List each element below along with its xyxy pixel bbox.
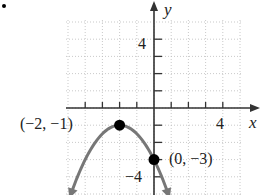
y-axis-label: y	[162, 0, 172, 19]
x-axis-label: x	[248, 113, 257, 132]
plotted-point	[149, 154, 160, 165]
axes	[66, 1, 260, 195]
y-tick-label-neg4: −4	[125, 168, 142, 185]
parabola-graph: y x 4 4 −4 (−2, −1) (0, −3)	[0, 0, 270, 195]
intercept-label: (0, −3)	[169, 150, 213, 168]
vertex-label: (−2, −1)	[20, 115, 73, 133]
y-tick-label-4: 4	[138, 35, 146, 52]
x-tick-label-4: 4	[216, 115, 224, 132]
plotted-point	[114, 120, 125, 131]
